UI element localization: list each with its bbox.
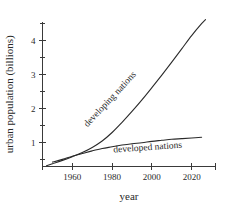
- y-tick-label: 1: [31, 138, 36, 148]
- y-tick-label: 4: [31, 36, 36, 46]
- x-tick-label: 1960: [63, 172, 82, 182]
- y-tick-label: 3: [31, 70, 36, 80]
- y-axis-title: urban population (billions): [3, 35, 16, 153]
- chart-figure: 12341960198020002020developing nationsde…: [0, 0, 229, 210]
- x-tick-label: 2020: [183, 172, 202, 182]
- series-label-developed-nations: developed nations: [113, 140, 183, 155]
- x-axis-title: year: [120, 190, 139, 202]
- chart-labels: 12341960198020002020developing nationsde…: [3, 35, 201, 202]
- line-chart: 12341960198020002020developing nationsde…: [0, 0, 229, 210]
- x-tick-label: 2000: [143, 172, 162, 182]
- x-tick-label: 1980: [103, 172, 122, 182]
- series-label-developing-nations: developing nations: [82, 69, 139, 129]
- y-tick-label: 2: [31, 104, 36, 114]
